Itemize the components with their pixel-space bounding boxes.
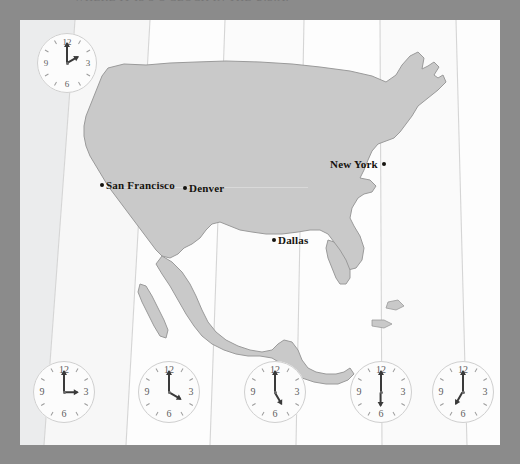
clock-numeral-3: 3 — [80, 59, 96, 68]
clock-numeral-3: 3 — [395, 387, 411, 397]
page-frame: WHERE IT IS 3 O'CLOCK IN THE U.S.A. — [0, 0, 520, 464]
city-label-new-york: New York — [330, 158, 386, 170]
clock-numeral-3: 3 — [477, 387, 493, 397]
clock-numeral-9: 9 — [139, 387, 155, 397]
city-label-dallas: Dallas — [272, 234, 309, 246]
clock-central: 12369 — [244, 361, 306, 423]
clock-numeral-3: 3 — [183, 387, 199, 397]
clock-center-pin — [63, 391, 66, 394]
clock-minute-hand — [168, 371, 170, 392]
clock-numeral-3: 3 — [289, 387, 305, 397]
clock-minute-hand — [274, 371, 276, 392]
city-dot-dallas — [272, 238, 276, 242]
clock-center-pin — [274, 391, 277, 394]
clock-numeral-6: 6 — [267, 409, 283, 419]
clock-pacific: 12369 — [33, 361, 95, 423]
clock-atlantic: 12369 — [432, 361, 494, 423]
clock-numeral-6: 6 — [56, 409, 72, 419]
clock-mountain: 12369 — [138, 361, 200, 423]
clock-minute-hand — [462, 371, 464, 392]
clock-center-pin — [380, 391, 383, 394]
city-name-denver: Denver — [189, 182, 224, 194]
clock-numeral-9: 9 — [38, 59, 54, 68]
clock-numeral-9: 9 — [245, 387, 261, 397]
caption-strip: WHERE IT IS 3 O'CLOCK IN THE U.S.A. — [0, 0, 520, 9]
clock-numeral-3: 3 — [78, 387, 94, 397]
city-name-san-francisco: San Francisco — [106, 179, 175, 191]
city-name-new-york: New York — [330, 158, 378, 170]
city-dot-san-francisco — [100, 183, 104, 187]
clock-minute-hand — [380, 371, 382, 392]
clock-numeral-9: 9 — [351, 387, 367, 397]
clock-center-pin — [168, 391, 171, 394]
clock-minute-hand — [63, 371, 65, 392]
city-label-denver: Denver — [183, 182, 224, 194]
clock-numeral-6: 6 — [59, 80, 75, 89]
clock-eastern: 12369 — [350, 361, 412, 423]
clock-numeral-6: 6 — [455, 409, 471, 419]
clock-numeral-6: 6 — [161, 409, 177, 419]
clock-minute-hand — [66, 43, 68, 63]
map-plate: San Francisco Denver Dallas New York 123… — [20, 20, 500, 445]
clock-hour-hand — [380, 392, 382, 406]
page-caption: WHERE IT IS 3 O'CLOCK IN THE U.S.A. — [74, 0, 289, 3]
city-label-san-francisco: San Francisco — [100, 179, 175, 191]
clock-numeral-9: 9 — [433, 387, 449, 397]
clock-numeral-6: 6 — [373, 409, 389, 419]
clock-top-left: 12369 — [37, 33, 97, 93]
clock-hour-hand — [64, 391, 78, 393]
city-dot-denver — [183, 186, 187, 190]
clock-center-pin — [66, 62, 69, 65]
city-name-dallas: Dallas — [278, 234, 309, 246]
clock-center-pin — [462, 391, 465, 394]
clock-numeral-9: 9 — [34, 387, 50, 397]
city-dot-new-york — [382, 162, 386, 166]
